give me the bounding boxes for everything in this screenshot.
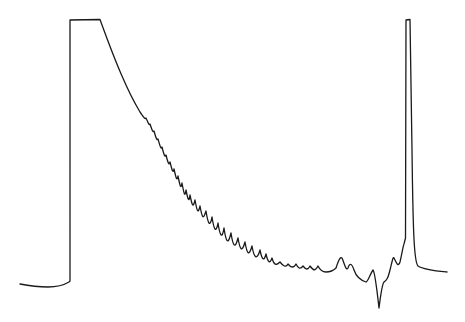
signal-trace: [20, 20, 447, 309]
signal-plot: [0, 0, 465, 322]
